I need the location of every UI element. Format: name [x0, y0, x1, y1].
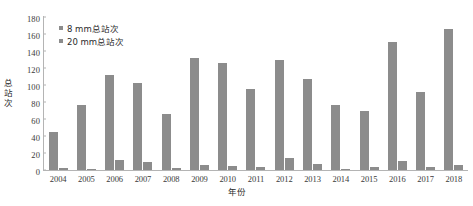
y-axis-tick-20: 20	[31, 144, 40, 162]
bar-group	[185, 17, 213, 170]
x-axis-label-2009: 2009	[185, 174, 213, 184]
bar-chart: 总站次 180160140120100806040200 8 mm总站次 20 …	[0, 0, 473, 206]
y-axis-tick-180: 180	[27, 8, 40, 26]
plot-area	[44, 17, 468, 170]
y-axis-tick-160: 160	[27, 25, 40, 43]
y-axis-tick-label: 20	[31, 150, 40, 160]
bar-group	[440, 17, 468, 170]
x-axis-label-2010: 2010	[214, 174, 242, 184]
x-axis-label-2015: 2015	[355, 174, 383, 184]
bar-group	[214, 17, 242, 170]
y-axis-tick-100: 100	[27, 76, 40, 94]
y-axis-tick-label: 120	[27, 65, 40, 75]
x-axis-label-2011: 2011	[242, 174, 270, 184]
bar-2014-series2	[341, 169, 350, 170]
y-axis-tick-120: 120	[27, 59, 40, 77]
x-axis-line	[43, 170, 468, 171]
bar-2010-series1	[218, 63, 227, 170]
bar-2017-series2	[426, 167, 435, 170]
bar-group	[411, 17, 439, 170]
bar-group	[270, 17, 298, 170]
y-axis-tick-80: 80	[31, 93, 40, 111]
bar-group	[101, 17, 129, 170]
bar-group	[72, 17, 100, 170]
bar-2006-series1	[105, 75, 114, 170]
bar-2018-series2	[454, 165, 463, 170]
x-axis-label-2016: 2016	[383, 174, 411, 184]
x-axis-label-2017: 2017	[411, 174, 439, 184]
bar-2006-series2	[115, 160, 124, 170]
y-axis-tick-40: 40	[31, 127, 40, 145]
bar-group	[157, 17, 185, 170]
bar-2007-series1	[133, 83, 142, 170]
bar-2012-series1	[275, 60, 284, 170]
y-axis-tick-label: 40	[31, 133, 40, 143]
x-axis-label-2004: 2004	[44, 174, 72, 184]
bar-2015-series1	[360, 111, 369, 170]
bar-2018-series1	[444, 29, 453, 170]
bar-group	[44, 17, 72, 170]
x-axis-label-2013: 2013	[298, 174, 326, 184]
bar-2013-series1	[303, 79, 312, 170]
x-axis-label-2014: 2014	[327, 174, 355, 184]
bar-group	[383, 17, 411, 170]
y-axis-tick-0: 0	[36, 161, 40, 179]
bar-2011-series2	[256, 167, 265, 170]
x-axis-label-2008: 2008	[157, 174, 185, 184]
y-axis-tick-label: 0	[36, 167, 40, 177]
x-axis-label-2007: 2007	[129, 174, 157, 184]
bar-group	[298, 17, 326, 170]
bar-2009-series2	[200, 165, 209, 170]
bar-2015-series2	[370, 167, 379, 170]
bar-2008-series1	[162, 114, 171, 170]
bar-2010-series2	[228, 166, 237, 170]
y-axis-tick-label: 160	[27, 31, 40, 41]
y-axis-tick-label: 60	[31, 116, 40, 126]
bar-2008-series2	[172, 168, 181, 170]
bar-2011-series1	[246, 89, 255, 170]
bar-2017-series1	[416, 92, 425, 170]
y-axis-tick-140: 140	[27, 42, 40, 60]
bar-group	[242, 17, 270, 170]
bar-group	[355, 17, 383, 170]
bar-2004-series2	[59, 168, 68, 170]
x-axis-label-2012: 2012	[270, 174, 298, 184]
bar-2016-series2	[398, 161, 407, 170]
bar-2004-series1	[49, 132, 58, 170]
y-axis-tick-label: 80	[31, 99, 40, 109]
bar-2014-series1	[331, 105, 340, 170]
x-axis-title: 年份	[0, 185, 473, 197]
bar-2005-series1	[77, 105, 86, 170]
bar-2016-series1	[388, 42, 397, 170]
x-axis-label-2005: 2005	[72, 174, 100, 184]
y-axis-tick-label: 100	[27, 82, 40, 92]
bar-2007-series2	[143, 162, 152, 170]
y-axis-ticks: 180160140120100806040200	[0, 0, 40, 206]
bar-2013-series2	[313, 164, 322, 170]
bar-group	[129, 17, 157, 170]
bar-2012-series2	[285, 158, 294, 170]
bar-group	[327, 17, 355, 170]
bar-2005-series2	[87, 169, 96, 170]
y-axis-tick-label: 140	[27, 48, 40, 58]
y-axis-tick-60: 60	[31, 110, 40, 128]
bar-2009-series1	[190, 58, 199, 170]
x-axis-label-2018: 2018	[440, 174, 468, 184]
x-axis-label-2006: 2006	[101, 174, 129, 184]
y-axis-tick-label: 180	[27, 14, 40, 24]
